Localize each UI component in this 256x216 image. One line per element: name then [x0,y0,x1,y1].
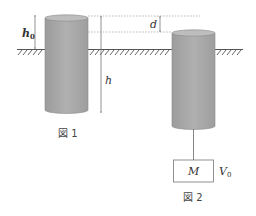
cylinder-figure-2 [172,30,215,130]
volume-label: V0 [219,166,231,179]
figure-1-caption: 図 1 [58,129,78,139]
cylinder-figure-1 [45,15,88,114]
d-label: d [150,19,157,30]
reference-dotted-lines [88,16,200,32]
h0-label: h0 [22,28,35,40]
figure-2-caption: 図 2 [183,193,203,203]
diagram-canvas [0,0,256,216]
h-label: h [105,75,112,86]
mass-label: M [188,166,199,177]
